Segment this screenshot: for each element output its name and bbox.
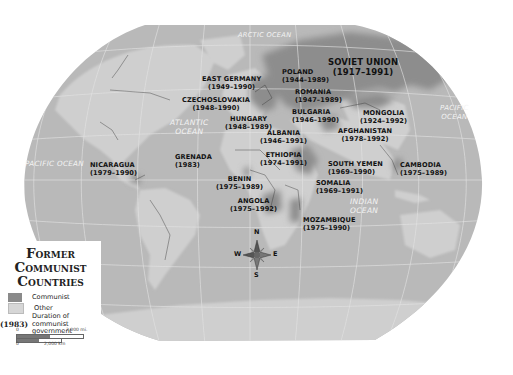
legend-title-line-3: Countries (0, 273, 101, 289)
compass-s: S (254, 271, 259, 279)
compass-e: E (273, 250, 277, 258)
ocean-label-pacific-east: PACIFIC OCEAN (440, 104, 469, 122)
label-bulgaria: BULGARIA (1946–1990) (292, 108, 339, 124)
ocean-label-pacific-west: PACIFIC OCEAN (25, 160, 84, 168)
label-south-yemen: SOUTH YEMEN (1969–1990) (328, 160, 383, 176)
label-romania: ROMANIA (1947–1989) (295, 88, 342, 104)
legend-item-duration: (1983) Duration of communist government (0, 313, 101, 336)
compass-n: N (254, 228, 259, 236)
label-albania: ALBANIA (1946–1991) (260, 129, 307, 145)
label-angola: ANGOLA (1975–1992) (230, 197, 277, 213)
label-benin: BENIN (1975–1989) (216, 175, 263, 191)
legend-item-communist: Communist (8, 293, 70, 302)
label-nicaragua: NICARAGUA (1979–1990) (90, 161, 137, 177)
label-poland: POLAND (1944–1989) (282, 68, 329, 84)
label-ethiopia: ETHIOPIA (1974–1991) (260, 151, 307, 167)
ocean-label-arctic: ARCTIC OCEAN (238, 31, 291, 39)
label-mozambique: MOZAMBIQUE (1975–1990) (303, 216, 356, 232)
label-east-germany: EAST GERMANY (1949–1990) (202, 75, 261, 91)
ocean-label-atlantic: ATLANTIC OCEAN (170, 118, 209, 136)
label-grenada: GRENADA (1983) (175, 153, 212, 169)
ocean-label-indian: INDIAN OCEAN (350, 197, 378, 215)
label-mongolia: MONGOLIA (1924–1992) (360, 109, 407, 125)
label-soviet-union: SOVIET UNION (1917–1991) (328, 57, 398, 77)
label-czechoslovakia: CZECHOSLOVAKIA (1948–1990) (182, 96, 250, 112)
label-afghanistan: AFGHANISTAN (1978–1992) (338, 127, 392, 143)
label-somalia: SOMALIA (1969–1991) (316, 179, 363, 195)
duration-sample: (1983) (0, 320, 28, 329)
compass-rose: N S W E (236, 230, 276, 278)
label-cambodia: CAMBODIA (1975–1989) (400, 161, 447, 177)
communist-swatch (8, 293, 22, 302)
compass-w: W (234, 250, 241, 258)
